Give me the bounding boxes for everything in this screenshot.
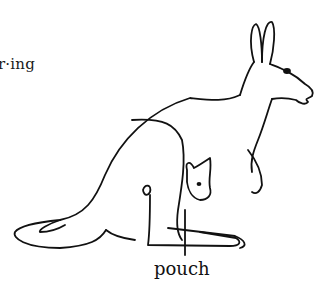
kangaroo-arm: [248, 150, 262, 193]
kangaroo-illustration: [0, 0, 326, 283]
kangaroo-thigh: [132, 120, 184, 240]
kangaroo-hind-leg: [148, 195, 239, 246]
kangaroo-eye: [284, 69, 290, 73]
joey-fur-tuft: [143, 186, 150, 195]
kangaroo-head: [240, 62, 313, 104]
joey-eye: [198, 183, 201, 185]
joey-head: [187, 158, 211, 200]
kangaroo-ear-left: [251, 24, 262, 62]
pouch-label: pouch: [154, 258, 210, 279]
kangaroo-rump: [106, 230, 135, 240]
kangaroo-ear-right: [262, 22, 274, 64]
